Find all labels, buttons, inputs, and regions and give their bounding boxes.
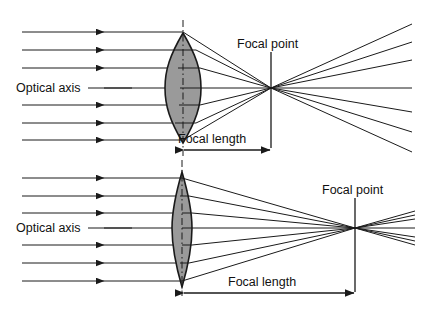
converging-ray	[182, 228, 355, 281]
diverging-ray	[271, 24, 412, 88]
diverging-ray	[271, 88, 412, 152]
converging-ray	[200, 88, 271, 105]
converging-ray	[192, 228, 355, 245]
panel-top: Optical axis Focal point Focal length	[16, 20, 412, 156]
diverging-ray	[355, 219, 415, 228]
converging-ray	[196, 50, 271, 88]
focal-length-label-bottom: Focal length	[228, 275, 296, 289]
converging-ray	[189, 228, 355, 263]
optics-figure: Optical axis Focal point Focal length	[0, 0, 425, 311]
diverging-ray	[271, 60, 412, 88]
diverging-ray	[355, 228, 415, 241]
focal-point-label-bottom: Focal point	[322, 183, 384, 197]
diverging-rays-bottom	[355, 211, 415, 245]
diverging-ray	[355, 211, 415, 228]
panel-bottom: Optical axis Focal point Focal length	[16, 160, 415, 296]
optical-axis-label-top: Optical axis	[16, 81, 81, 95]
diverging-ray	[271, 88, 412, 112]
diverging-ray	[271, 88, 412, 132]
diverging-ray	[355, 228, 415, 245]
converging-ray	[196, 88, 271, 123]
optical-axis-label-bottom: Optical axis	[16, 221, 81, 235]
diverging-ray	[355, 228, 415, 237]
converging-ray	[189, 196, 355, 228]
converging-ray	[200, 68, 271, 88]
lens-diagram-svg: Optical axis Focal point Focal length	[0, 0, 425, 311]
focal-length-label-top: Focal length	[178, 132, 246, 146]
diverging-ray	[355, 215, 415, 228]
focal-point-label-top: Focal point	[237, 37, 299, 51]
